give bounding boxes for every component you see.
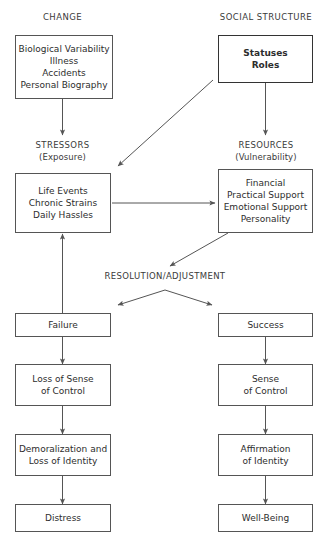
node-statuses-roles: Statuses Roles: [218, 35, 313, 83]
node-affirmation-of-identity: Affirmation of Identity: [218, 434, 313, 476]
stage-label-main: STRESSORS: [10, 140, 115, 152]
arrow-statuses-to-stressors: [118, 80, 213, 166]
node-line: Illness: [19, 55, 110, 67]
node-line: Sense: [243, 373, 287, 385]
node-change-sources: Biological Variability Illness Accidents…: [15, 35, 113, 99]
node-line: Success: [247, 319, 283, 331]
column-header-change: CHANGE: [15, 12, 110, 22]
node-line: Roles: [243, 59, 287, 71]
node-line: Daily Hassles: [29, 209, 97, 221]
node-line: Biological Variability: [19, 43, 110, 55]
node-line: Emotional Support: [224, 201, 308, 213]
node-well-being: Well-Being: [218, 504, 313, 532]
node-loss-of-sense-of-control: Loss of Sense of Control: [15, 364, 111, 406]
arrow-resolution-to-success: [165, 290, 212, 305]
node-line: Failure: [48, 319, 78, 331]
stage-label-main: RESOURCES: [206, 140, 326, 152]
node-line: Loss of Sense: [32, 373, 93, 385]
node-line: Well-Being: [242, 512, 289, 524]
node-line: of Control: [32, 385, 93, 397]
node-line: Financial: [224, 177, 308, 189]
node-line: Distress: [45, 512, 81, 524]
stage-label-resolution-adjustment: RESOLUTION/ADJUSTMENT: [85, 271, 245, 283]
node-line: of Identity: [241, 455, 291, 467]
column-header-social-structure: SOCIAL STRUCTURE: [206, 12, 326, 22]
node-resources-list: Financial Practical Support Emotional Su…: [218, 169, 313, 233]
node-line: Practical Support: [224, 189, 308, 201]
node-line: Demoralization and: [19, 443, 107, 455]
node-demoralization: Demoralization and Loss of Identity: [15, 434, 111, 476]
node-line: Accidents: [19, 67, 110, 79]
stage-label-sub: (Exposure): [10, 152, 115, 164]
stress-process-diagram: CHANGE SOCIAL STRUCTURE Biological Varia…: [0, 0, 326, 547]
stage-label-resources: RESOURCES (Vulnerability): [206, 140, 326, 163]
node-line: Affirmation: [241, 443, 291, 455]
node-stressors-list: Life Events Chronic Strains Daily Hassle…: [15, 173, 111, 233]
node-line: of Control: [243, 385, 287, 397]
node-distress: Distress: [15, 504, 111, 532]
node-line: Personal Biography: [19, 79, 110, 91]
node-sense-of-control: Sense of Control: [218, 364, 313, 406]
node-line: Chronic Strains: [29, 197, 97, 209]
stage-label-sub: (Vulnerability): [206, 152, 326, 164]
node-line: Life Events: [29, 185, 97, 197]
stage-label-main: RESOLUTION/ADJUSTMENT: [85, 271, 245, 283]
arrow-resolution-to-failure: [118, 290, 165, 305]
node-success: Success: [218, 313, 313, 337]
arrow-resources-to-resolution: [170, 233, 228, 266]
stage-label-stressors: STRESSORS (Exposure): [10, 140, 115, 163]
node-line: Personality: [224, 213, 308, 225]
node-failure: Failure: [15, 313, 111, 337]
node-line: Loss of Identity: [19, 455, 107, 467]
node-line: Statuses: [243, 47, 287, 59]
